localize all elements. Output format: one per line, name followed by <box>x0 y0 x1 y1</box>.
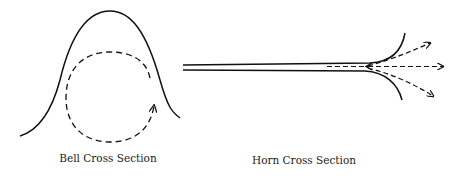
horn-diagram <box>183 33 443 100</box>
bell-label: Bell Cross Section <box>59 152 156 164</box>
bell-curve <box>20 11 180 136</box>
lower-radiating-arrow-icon <box>368 68 433 96</box>
bell-diagram <box>20 11 180 142</box>
diagram-canvas <box>0 0 461 176</box>
horn-label: Horn Cross Section <box>252 154 356 166</box>
horn-upper-wall <box>183 33 405 65</box>
circular-arrow-icon <box>66 52 154 142</box>
horn-lower-wall <box>183 70 402 100</box>
